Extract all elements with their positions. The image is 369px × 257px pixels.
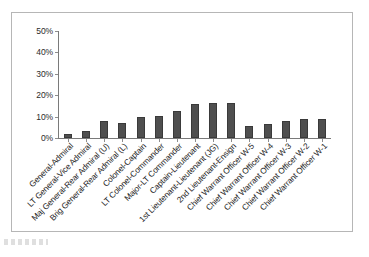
bar (118, 123, 126, 138)
scan-artifact (4, 239, 48, 245)
bar (227, 103, 235, 138)
y-tick-label: 30% (36, 69, 53, 79)
bar (191, 104, 199, 138)
bar (282, 121, 290, 138)
bar (300, 119, 308, 138)
y-tick-mark (55, 31, 58, 32)
chart-frame: 0%10%20%30%40%50% General-AdmiralLT Gene… (11, 12, 353, 232)
y-tick-mark (55, 117, 58, 118)
bar (173, 111, 181, 138)
y-tick-label: 20% (36, 90, 53, 100)
x-axis-label: Maj General-Rear Admiral (U) (30, 141, 112, 223)
bar (155, 116, 163, 138)
bar (137, 117, 145, 138)
bar (264, 124, 272, 138)
bar (82, 131, 90, 138)
y-tick-mark (55, 74, 58, 75)
bar (64, 134, 72, 138)
bars-layer (59, 31, 331, 138)
y-tick-label: 40% (36, 47, 53, 57)
plot-area: 0%10%20%30%40%50% (58, 31, 331, 139)
x-axis-labels: General-AdmiralLT General-Vice AdmiralMa… (58, 139, 358, 235)
bar (318, 119, 326, 138)
y-tick-mark (55, 95, 58, 96)
y-tick-label: 50% (36, 26, 53, 36)
y-tick-label: 0% (41, 133, 53, 143)
bar (245, 126, 253, 138)
bar (209, 103, 217, 138)
y-tick-mark (55, 52, 58, 53)
y-tick-label: 10% (36, 112, 53, 122)
bar (100, 121, 108, 138)
